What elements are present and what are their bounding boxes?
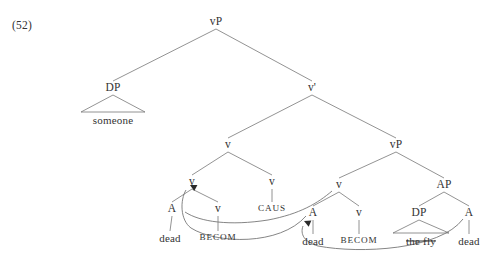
tree-node-someone: someone (93, 115, 134, 126)
edge-vP_low-v_low (339, 152, 396, 178)
edge-A_left-dead_left (170, 216, 172, 231)
movement-arc-move-A-to-v-low (302, 219, 463, 250)
edge-vP_low-AP (396, 152, 444, 178)
tree-node-v_caus: v (269, 176, 275, 188)
triangle-DP_subj-someone (81, 95, 145, 112)
tree-node-BECOM_left: BECOM (199, 233, 236, 242)
tree-node-v_low: v (336, 179, 342, 191)
edge-v_low-v_becom_r (339, 192, 359, 206)
edge-vbar-vP_low (312, 95, 396, 138)
edge-vP_top-DP_subj (113, 29, 216, 81)
tree-node-dead_left: dead (159, 233, 181, 244)
tree-node-vbar: v' (308, 82, 316, 94)
tree-node-vP_top: vP (210, 16, 223, 28)
tree-edges (113, 29, 469, 234)
edge-AP-A_far (444, 192, 469, 206)
tree-node-dead_right: dead (458, 236, 480, 247)
arrowhead-move-A-to-v-low (303, 218, 312, 227)
edge-v_left-v_becom_l (192, 189, 218, 202)
tree-node-vP_low: vP (390, 139, 403, 151)
tree-node-the_fly: the fly (406, 236, 436, 247)
edge-v_mid-v_caus (228, 152, 272, 175)
tree-node-A_left: A (168, 203, 177, 215)
triangle-DP_obj-the_fly (393, 220, 449, 233)
tree-lines-svg (0, 0, 496, 261)
tree-node-A_far: A (465, 207, 474, 219)
tree-node-AP: AP (436, 179, 451, 191)
tree-node-v_mid: v (225, 139, 231, 151)
tree-node-v_left: v (189, 176, 195, 188)
tree-node-CAUS: CAUS (258, 204, 286, 213)
edge-v_low-A_right (313, 192, 339, 206)
tree-node-dead_mid: dead (302, 236, 324, 247)
tree-node-v_becom_r: v (356, 207, 362, 219)
edge-vbar-v_mid (228, 95, 312, 138)
tree-node-A_right: A (309, 207, 318, 219)
tree-node-DP_obj: DP (411, 207, 426, 219)
tree-node-DP_subj: DP (105, 82, 120, 94)
edge-v_mid-v_left (192, 152, 228, 175)
syntax-tree-figure: (52) vPDPsomeonev'vvPvvAdeadvBECOMCAUSvA… (0, 0, 496, 261)
edge-vP_top-vbar (216, 29, 312, 81)
tree-node-BECOM_right: BECOM (340, 236, 377, 245)
edge-AP-DP_obj (419, 192, 444, 206)
tree-node-v_becom_l: v (215, 203, 221, 215)
